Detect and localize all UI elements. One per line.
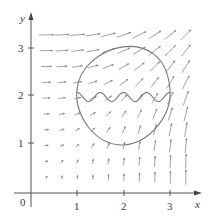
arrowhead-icon xyxy=(47,113,49,115)
arrowhead-icon xyxy=(50,65,52,67)
arrowhead-icon xyxy=(169,155,171,157)
field-arrow xyxy=(183,91,188,105)
arrowhead-icon xyxy=(123,173,125,175)
field-arrow xyxy=(133,32,146,39)
arrowhead-icon xyxy=(138,157,140,159)
field-arrow xyxy=(185,122,187,137)
field-arrow xyxy=(166,61,175,73)
field-arrow xyxy=(186,154,187,169)
plot-svg: y 3 2 1 0 1 2 3 x xyxy=(0,0,212,221)
y-tick-label-1: 1 xyxy=(18,137,24,149)
field-arrow xyxy=(183,76,190,89)
arrowhead-icon xyxy=(92,175,94,177)
field-arrow xyxy=(184,107,188,122)
arrowhead-icon xyxy=(65,65,67,67)
field-arrow xyxy=(149,31,162,39)
arrowhead-icon xyxy=(169,171,171,173)
y-tick-label-3: 3 xyxy=(18,42,24,54)
field-arrow xyxy=(182,60,190,73)
arrowhead-icon xyxy=(170,139,172,141)
arrowhead-icon xyxy=(185,170,187,172)
x-axis-arrowhead-icon xyxy=(194,191,202,196)
field-arrow xyxy=(117,32,131,37)
field-arrow xyxy=(149,46,161,55)
field-arrow xyxy=(101,33,116,37)
field-arrow xyxy=(165,30,177,39)
arrowhead-icon xyxy=(66,49,68,51)
arrowhead-icon xyxy=(48,97,50,99)
arrowhead-icon xyxy=(51,49,53,51)
arrowhead-icon xyxy=(107,174,109,176)
arrowhead-icon xyxy=(76,175,78,177)
field-arrow xyxy=(181,30,192,41)
x-tick-label-2: 2 xyxy=(121,200,127,212)
y-axis-arrowhead-icon xyxy=(29,12,34,20)
arrowhead-icon xyxy=(82,49,84,51)
arrowhead-icon xyxy=(49,81,51,83)
arrowhead-icon xyxy=(138,173,140,175)
arrowhead-icon xyxy=(64,81,66,83)
field-arrow xyxy=(70,34,85,35)
x-tick-label-3: 3 xyxy=(167,200,173,212)
arrowhead-icon xyxy=(154,172,156,174)
y-tick-label-2: 2 xyxy=(18,89,24,101)
arrowhead-icon xyxy=(83,33,85,35)
arrowhead-icon xyxy=(67,33,69,35)
field-arrow xyxy=(165,45,176,56)
arrowhead-icon xyxy=(154,156,156,158)
arrowhead-icon xyxy=(185,154,187,156)
arrowhead-icon xyxy=(123,158,125,160)
arrowhead-icon xyxy=(185,138,187,140)
field-arrow xyxy=(181,45,190,57)
field-arrow xyxy=(54,35,69,36)
arrowhead-icon xyxy=(63,97,65,99)
arrowhead-icon xyxy=(47,129,49,131)
arrowhead-icon xyxy=(46,144,48,146)
arrowhead-icon xyxy=(52,34,54,36)
vector-field-diagram: y 3 2 1 0 1 2 3 x xyxy=(0,0,212,221)
field-arrow xyxy=(185,138,186,153)
origin-label: 0 xyxy=(20,196,26,208)
field-arrow xyxy=(86,34,101,36)
x-axis-label: x xyxy=(194,198,200,210)
wavy-curve xyxy=(77,93,170,102)
x-tick-label-1: 1 xyxy=(74,200,80,212)
y-axis-label: y xyxy=(19,12,25,24)
